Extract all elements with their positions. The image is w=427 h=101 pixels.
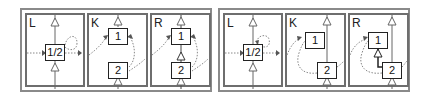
node-2: 2 <box>382 62 402 79</box>
rule-right: L 1/2 K 1 2 R <box>218 8 410 92</box>
self-loop-dotted <box>65 36 77 49</box>
panel-k: K 1 2 <box>285 13 346 87</box>
up-arrow-icon <box>51 18 59 26</box>
node-2: 2 <box>108 62 128 79</box>
node-1: 1 <box>108 28 128 45</box>
rule-left: L 1/2 K 1 2 R <box>20 8 212 92</box>
node-1: 1 <box>368 32 388 49</box>
node-2: 2 <box>171 62 191 79</box>
panel-k: K 1 2 <box>87 13 148 87</box>
node-1-2: 1/2 <box>243 44 263 61</box>
node-1: 1 <box>171 28 191 45</box>
panel-l: L 1/2 <box>223 13 283 87</box>
node-1: 1 <box>305 32 325 49</box>
panel-r: R 1 2 <box>348 13 409 87</box>
node-1-2: 1/2 <box>45 44 65 61</box>
node-2: 2 <box>317 62 337 79</box>
up-arrow-icon <box>51 63 59 71</box>
panel-r: R 1 2 <box>150 13 211 87</box>
panel-l: L 1/2 <box>25 13 85 87</box>
